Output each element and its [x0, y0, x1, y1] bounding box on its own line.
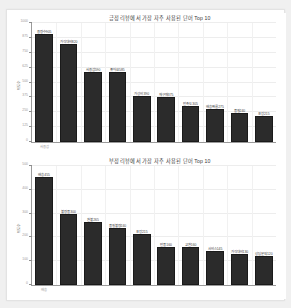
bar: 환불265	[84, 222, 102, 285]
y-axis-tick-label: 0	[26, 281, 28, 285]
bar: 사용감590	[84, 72, 102, 142]
plot-area: 0100200300400500배송455불량품300환불265품질불량240포…	[32, 166, 276, 285]
vertical-gridline	[154, 23, 155, 142]
plot-area: 01252503755006257508751000용량수905가격대비820사…	[32, 23, 276, 142]
vertical-gridline	[154, 166, 155, 285]
y-axis-tick	[29, 37, 32, 38]
bar-value-label: 배송빠름275	[206, 105, 224, 109]
y-axis-label: 빈도수	[16, 223, 21, 232]
bar: 포장215	[255, 116, 273, 142]
bar: 품질불량240	[109, 228, 127, 285]
y-axis-tick-label: 0	[26, 138, 28, 142]
y-axis-tick	[29, 141, 32, 142]
bar: 재구매375	[157, 97, 175, 142]
bar-value-label: 품질불량240	[109, 224, 127, 228]
x-axis-tick-label: 배송	[41, 287, 47, 292]
bar: 포장215	[133, 234, 151, 285]
bar-value-label: 포장215	[258, 112, 270, 116]
y-axis-tick-label: 125	[22, 123, 28, 127]
chart-card: 긍정 리뷰에서 가장 자주 사용된 단어 Top 10 빈도수 01252503…	[6, 9, 285, 301]
bar-value-label: 불량품300	[61, 210, 76, 214]
bar-value-label: 교환160	[185, 243, 197, 247]
bar-value-label: 환불265	[87, 218, 99, 222]
y-axis-tick	[29, 284, 32, 285]
chart-positive-reviews: 긍정 리뷰에서 가장 자주 사용된 단어 Top 10 빈도수 01252503…	[7, 13, 286, 156]
bar-value-label: 용량수905	[37, 30, 52, 34]
chart-title: 긍정 리뷰에서 가장 자주 사용된 단어 Top 10	[7, 15, 286, 22]
vertical-gridline	[178, 166, 179, 285]
y-axis-tick	[29, 22, 32, 23]
y-axis-tick	[29, 236, 32, 237]
bar: 만족도305	[182, 106, 200, 142]
vertical-gridline	[252, 166, 253, 285]
bar-value-label: 품질240	[234, 109, 246, 113]
bar: 가격대비820	[60, 44, 78, 142]
screenshot-root: 긍정 리뷰에서 가장 자주 사용된 단어 Top 10 빈도수 01252503…	[0, 0, 291, 308]
bar-value-label: 포장215	[136, 230, 148, 234]
plot-axes: 0100200300400500배송455불량품300환불265품질불량240포…	[31, 166, 276, 286]
vertical-gridline	[56, 166, 57, 285]
y-axis-tick	[29, 126, 32, 127]
vertical-gridline	[227, 23, 228, 142]
plot-axes: 01252503755006257508751000용량수905가격대비820사…	[31, 23, 276, 143]
y-axis-tick	[29, 67, 32, 68]
y-axis-tick	[29, 213, 32, 214]
y-axis-label: 빈도수	[16, 80, 21, 89]
bar-value-label: 좋아요585	[110, 68, 125, 72]
vertical-gridline	[178, 23, 179, 142]
y-axis-tick	[29, 96, 32, 97]
y-axis-tick	[29, 52, 32, 53]
y-axis-tick	[29, 165, 32, 166]
bar: 불량품300	[60, 214, 78, 285]
y-axis-tick	[29, 189, 32, 190]
y-axis-tick-label: 500	[22, 79, 28, 83]
bar: 배송빠름275	[206, 109, 224, 142]
bar: 품질240	[231, 113, 249, 142]
bar-value-label: 서비스145	[208, 247, 223, 251]
y-axis-tick-label: 250	[22, 108, 28, 112]
bar: 반품160	[157, 247, 175, 285]
vertical-gridline	[252, 23, 253, 142]
vertical-gridline	[203, 166, 204, 285]
bar: 상담문의120	[255, 256, 273, 285]
y-axis-tick-label: 375	[22, 93, 28, 97]
bar: 용량수905	[35, 34, 53, 142]
top-clipped-text	[0, 0, 291, 9]
vertical-gridline	[81, 23, 82, 142]
bar-value-label: 가격대비130	[231, 250, 249, 254]
bar-value-label: 만족도305	[183, 102, 198, 106]
vertical-gridline	[203, 23, 204, 142]
y-axis-tick-label: 200	[22, 233, 28, 237]
bar-value-label: 가성비390	[134, 92, 149, 96]
y-axis-tick-label: 500	[22, 162, 28, 166]
y-axis-tick-label: 300	[22, 210, 28, 214]
vertical-gridline	[81, 166, 82, 285]
vertical-gridline	[105, 23, 106, 142]
vertical-gridline	[130, 166, 131, 285]
bar: 배송455	[35, 177, 53, 285]
y-axis-tick	[29, 111, 32, 112]
vertical-gridline	[105, 166, 106, 285]
chart-negative-reviews: 부정 리뷰에서 가장 자주 사용된 단어 Top 10 빈도수 01002003…	[7, 156, 286, 299]
bottom-clipped-text	[0, 301, 291, 308]
bar: 좋아요585	[109, 72, 127, 142]
bar-value-label: 배송455	[38, 173, 50, 177]
bar-value-label: 가격대비820	[60, 40, 78, 44]
bar-value-label: 사용감590	[86, 68, 101, 72]
y-axis-tick-label: 875	[22, 34, 28, 38]
chart-title: 부정 리뷰에서 가장 자주 사용된 단어 Top 10	[7, 158, 286, 165]
vertical-gridline	[130, 23, 131, 142]
vertical-gridline	[56, 23, 57, 142]
bar-value-label: 상담문의120	[255, 252, 273, 256]
y-axis-tick	[29, 260, 32, 261]
y-axis-tick	[29, 82, 32, 83]
bar: 가격대비130	[231, 254, 249, 285]
bar-value-label: 재구매375	[159, 93, 174, 97]
bar: 서비스145	[206, 251, 224, 286]
y-axis-tick-label: 625	[22, 64, 28, 68]
y-axis-tick-label: 100	[22, 257, 28, 261]
y-axis-tick-label: 750	[22, 49, 28, 53]
x-axis-tick-label: 사용감	[40, 144, 49, 149]
bar-value-label: 반품160	[160, 243, 172, 247]
y-axis-tick-label: 400	[22, 186, 28, 190]
